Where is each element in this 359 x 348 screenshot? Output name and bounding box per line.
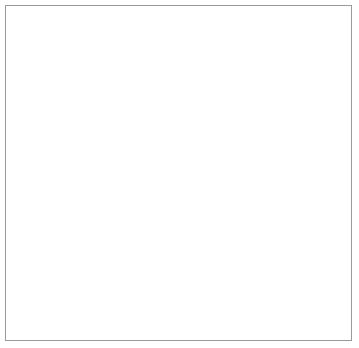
chart-figure: −4−2024681019621965196819711974197719801… [0,0,359,348]
figure-border [5,5,352,341]
